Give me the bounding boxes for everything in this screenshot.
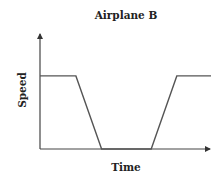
y-axis-label: Speed xyxy=(16,72,28,108)
x-axis-label: Time xyxy=(111,161,141,173)
speed-line xyxy=(40,76,211,149)
chart: Airplane B Speed Time xyxy=(0,0,223,184)
chart-title: Airplane B xyxy=(94,9,158,21)
chart-svg: Airplane B Speed Time xyxy=(0,0,223,184)
